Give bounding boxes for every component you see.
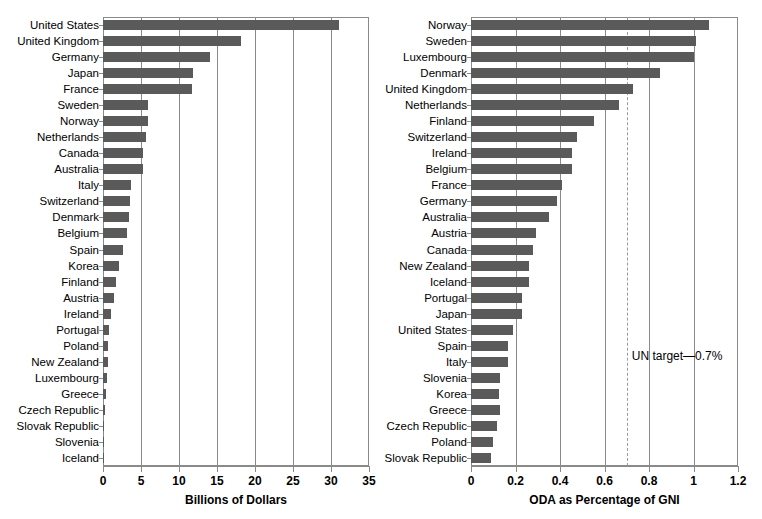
category-label: Denmark [420, 67, 467, 79]
y-tick-mark [99, 185, 103, 186]
bar-series-left [103, 17, 369, 466]
bar [103, 373, 107, 383]
bar-row [103, 357, 108, 367]
bar-row [103, 437, 104, 447]
y-tick-mark [467, 442, 471, 443]
bar [471, 132, 577, 142]
category-label: United States [398, 324, 467, 336]
bar [103, 389, 106, 399]
bar [103, 293, 114, 303]
bar [471, 180, 562, 190]
bar-row [103, 228, 127, 238]
bar [103, 52, 210, 62]
category-label: Greece [429, 404, 467, 416]
bar [471, 84, 633, 94]
bar [103, 196, 130, 206]
category-label: Finland [429, 115, 467, 127]
bar [471, 261, 529, 271]
category-label: United Kingdom [385, 83, 467, 95]
y-tick-mark [467, 362, 471, 363]
category-label: Netherlands [405, 99, 467, 111]
bar [471, 116, 594, 126]
x-tick-label: 0.4 [552, 474, 569, 488]
bar [103, 405, 105, 415]
category-label: Denmark [52, 211, 99, 223]
bar-row [471, 164, 572, 174]
y-tick-mark [99, 362, 103, 363]
category-label: Sweden [425, 35, 467, 47]
x-tick [369, 466, 370, 472]
bar-row [103, 148, 143, 158]
x-tick-label: 0.8 [641, 474, 658, 488]
y-tick-mark [99, 458, 103, 459]
y-tick-mark [99, 201, 103, 202]
bar [103, 68, 193, 78]
y-tick-mark [467, 394, 471, 395]
bar [471, 341, 508, 351]
y-tick-mark [467, 89, 471, 90]
x-tick [649, 466, 650, 472]
y-tick-mark [99, 89, 103, 90]
category-label: Korea [436, 388, 467, 400]
bar [471, 453, 491, 463]
bar-row [103, 309, 111, 319]
bar-row [103, 325, 109, 335]
x-tick [605, 466, 606, 472]
y-tick-mark [99, 137, 103, 138]
bar [103, 132, 146, 142]
bar [471, 389, 499, 399]
category-label: Slovak Republic [385, 452, 467, 464]
y-tick-mark [99, 426, 103, 427]
bar-row [103, 421, 104, 431]
category-label: Iceland [430, 276, 467, 288]
bar [103, 212, 129, 222]
x-tick [516, 466, 517, 472]
bar-row [471, 20, 709, 30]
x-axis-title-left: Billions of Dollars [185, 493, 287, 507]
bar [103, 261, 119, 271]
x-tick-label: 10 [172, 474, 185, 488]
bar-row [103, 100, 148, 110]
bar [471, 68, 660, 78]
bar [103, 357, 108, 367]
y-tick-mark [467, 137, 471, 138]
bar [471, 212, 549, 222]
bar-row [471, 277, 529, 287]
bar [103, 421, 104, 431]
bar [471, 20, 709, 30]
category-label: Finland [61, 276, 99, 288]
category-label: Ireland [64, 308, 99, 320]
x-tick [694, 466, 695, 472]
category-axis-left: United StatesUnited KingdomGermanyJapanF… [0, 17, 99, 466]
bar [103, 148, 143, 158]
category-label: Austria [63, 292, 99, 304]
y-tick-mark [467, 153, 471, 154]
y-tick-mark [467, 73, 471, 74]
x-tick [103, 466, 104, 472]
y-tick-mark [467, 105, 471, 106]
bar [103, 164, 143, 174]
category-label: Switzerland [40, 195, 99, 207]
bar-row [471, 148, 572, 158]
bar-row [103, 373, 107, 383]
category-label: Ireland [432, 147, 467, 159]
y-tick-mark [99, 57, 103, 58]
bar-row [471, 405, 500, 415]
category-label: Spain [70, 244, 99, 256]
bar [471, 373, 500, 383]
category-label: Canada [59, 147, 99, 159]
y-tick-mark [467, 314, 471, 315]
bar-row [471, 212, 549, 222]
bar-row [103, 20, 339, 30]
bar [103, 245, 123, 255]
bar-row [103, 116, 148, 126]
bar [471, 164, 572, 174]
category-label: Poland [63, 340, 99, 352]
bar-row [471, 245, 533, 255]
y-tick-mark [467, 57, 471, 58]
x-tick-label: 1 [690, 474, 697, 488]
category-label: France [431, 179, 467, 191]
category-label: Czech Republic [18, 404, 99, 416]
bar [471, 52, 694, 62]
y-tick-mark [467, 41, 471, 42]
